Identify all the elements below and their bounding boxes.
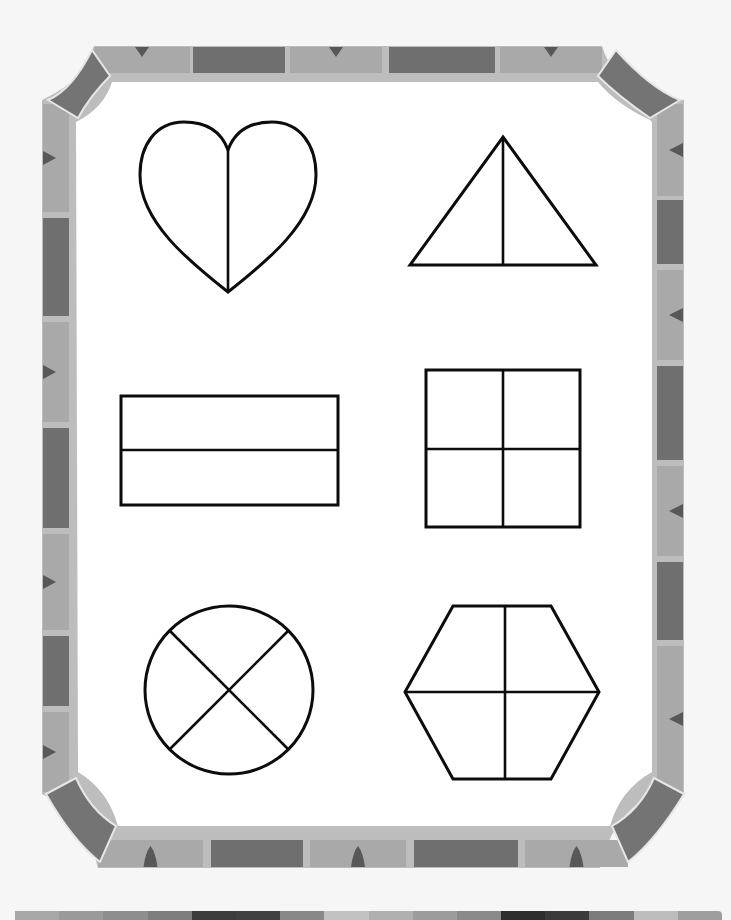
border-tile bbox=[657, 646, 683, 792]
calibration-swatch bbox=[15, 911, 59, 920]
paper-area bbox=[76, 82, 652, 826]
border-tile bbox=[43, 322, 69, 422]
color-calibration-strip bbox=[15, 911, 722, 920]
border-tile bbox=[193, 47, 285, 73]
border-right-tiles bbox=[657, 104, 683, 792]
calibration-swatch bbox=[59, 911, 103, 920]
border-tile bbox=[43, 104, 69, 212]
border-tile bbox=[94, 47, 190, 73]
border-tile bbox=[43, 428, 69, 528]
calibration-swatch bbox=[457, 911, 501, 920]
worksheet-canvas bbox=[0, 0, 731, 920]
border-tile bbox=[414, 840, 518, 867]
calibration-swatch bbox=[678, 911, 722, 920]
border-tile bbox=[98, 840, 203, 867]
border-tile bbox=[657, 366, 683, 460]
border-tile bbox=[525, 840, 628, 867]
border-tile bbox=[211, 840, 303, 867]
border-tile bbox=[43, 534, 69, 630]
border-tile bbox=[657, 200, 683, 264]
calibration-swatch bbox=[236, 911, 280, 920]
calibration-swatch bbox=[589, 911, 633, 920]
calibration-swatch bbox=[192, 911, 236, 920]
border-tile bbox=[290, 47, 382, 73]
border-tile bbox=[43, 712, 69, 792]
border-top-tiles bbox=[94, 47, 602, 73]
border-tile bbox=[389, 47, 495, 73]
worksheet-page bbox=[0, 0, 731, 920]
border-tile bbox=[500, 47, 602, 73]
calibration-swatch bbox=[545, 911, 589, 920]
calibration-swatch bbox=[103, 911, 147, 920]
calibration-swatch bbox=[634, 911, 678, 920]
border-tile bbox=[43, 636, 69, 706]
calibration-swatch bbox=[280, 911, 324, 920]
border-tile bbox=[657, 466, 683, 556]
calibration-swatch bbox=[413, 911, 457, 920]
decorative-border bbox=[42, 46, 684, 868]
border-tile bbox=[310, 840, 406, 867]
border-tile bbox=[43, 218, 69, 316]
calibration-swatch bbox=[324, 911, 368, 920]
border-tile bbox=[657, 104, 683, 196]
border-tile bbox=[657, 270, 683, 360]
border-bottom-tiles bbox=[98, 840, 628, 867]
calibration-swatch bbox=[501, 911, 545, 920]
calibration-swatch bbox=[148, 911, 192, 920]
border-left-tiles bbox=[43, 104, 69, 792]
border-tile bbox=[657, 562, 683, 640]
calibration-swatch bbox=[369, 911, 413, 920]
